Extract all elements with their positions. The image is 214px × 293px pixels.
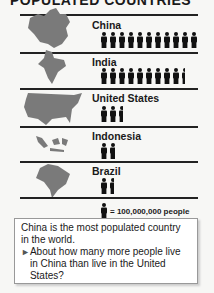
person-icon <box>100 32 108 48</box>
person-icon <box>118 32 126 48</box>
person-icon <box>163 32 171 48</box>
divider <box>20 161 198 163</box>
person-icon <box>100 106 108 122</box>
icons-united-states <box>100 106 123 122</box>
person-icon <box>172 32 180 48</box>
person-icon <box>136 32 144 48</box>
icons-india <box>100 68 185 84</box>
person-icon <box>109 178 114 194</box>
divider <box>20 88 198 90</box>
row-label-india: India <box>92 56 117 68</box>
row-label-united-states: United States <box>92 92 159 104</box>
person-icon <box>100 68 108 84</box>
person-icon <box>127 32 135 48</box>
united-states-map-icon <box>24 93 82 127</box>
legend-text: = 100,000,000 people <box>110 207 189 216</box>
icons-indonesia <box>100 143 115 159</box>
person-icon <box>118 106 123 122</box>
person-icon <box>100 143 108 159</box>
chart-title: POPULATED COUNTRIES <box>10 0 191 8</box>
arrow-bullet-icon: ► <box>21 246 30 282</box>
person-icon <box>109 68 117 84</box>
person-icon <box>100 178 108 194</box>
row-label-brazil: Brazil <box>92 165 121 177</box>
divider <box>20 197 198 199</box>
person-icon <box>136 68 144 84</box>
india-map-icon <box>38 50 68 86</box>
person-icon <box>163 68 171 84</box>
question-callout: China is the most populated country in t… <box>14 218 198 284</box>
callout-question: About how many more people live in China… <box>30 246 191 282</box>
callout-statement: China is the most populated country in t… <box>21 222 191 246</box>
icons-brazil <box>100 178 114 194</box>
person-icon <box>181 68 185 84</box>
person-icon <box>190 32 198 48</box>
person-icon <box>118 68 126 84</box>
divider <box>20 126 198 128</box>
person-icon <box>109 106 117 122</box>
person-icon <box>172 68 180 84</box>
person-icon <box>109 143 115 159</box>
person-icon <box>181 32 189 48</box>
person-icon <box>127 68 135 84</box>
person-icon <box>145 32 153 48</box>
person-icon <box>109 32 117 48</box>
legend: = 100,000,000 people <box>100 203 189 219</box>
icons-china <box>100 32 198 48</box>
row-label-indonesia: Indonesia <box>92 130 141 142</box>
person-icon <box>154 68 162 84</box>
row-label-china: China <box>92 19 121 31</box>
person-icon <box>154 32 162 48</box>
brazil-map-icon <box>36 164 72 198</box>
china-map-icon <box>26 8 72 48</box>
person-icon <box>145 68 153 84</box>
indonesia-map-icon <box>34 130 70 158</box>
person-icon <box>100 203 108 219</box>
